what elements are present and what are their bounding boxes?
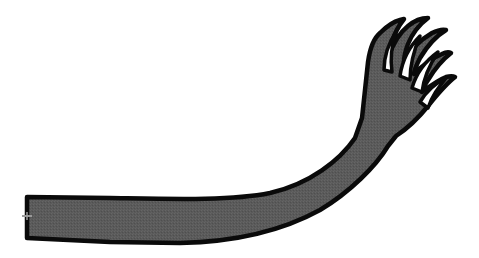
clawed-arm-illustration <box>0 0 479 258</box>
illustration-canvas: A long dark-gray cartoon arm extending f… <box>0 0 479 258</box>
